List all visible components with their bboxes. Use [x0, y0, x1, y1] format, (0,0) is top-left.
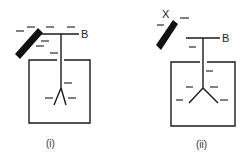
leaf-left-i	[54, 88, 61, 105]
leaf-left-ii	[189, 88, 203, 103]
caption-i: (i)	[46, 138, 55, 149]
terminal-label-b-i: B	[81, 28, 88, 40]
negative-charges-i	[16, 27, 76, 98]
caption-ii: (ii)	[196, 139, 207, 150]
electroscope-ii: X B (ii)	[156, 8, 235, 150]
terminal-label-b-ii: B	[222, 32, 229, 44]
electroscope-i: B (i)	[15, 27, 90, 149]
electroscope-diagram: B (i) X B	[0, 0, 248, 160]
leaf-right-i	[61, 88, 66, 105]
rod-label-x: X	[162, 8, 170, 20]
leaf-right-ii	[203, 88, 218, 103]
charged-rod-i	[15, 28, 43, 59]
